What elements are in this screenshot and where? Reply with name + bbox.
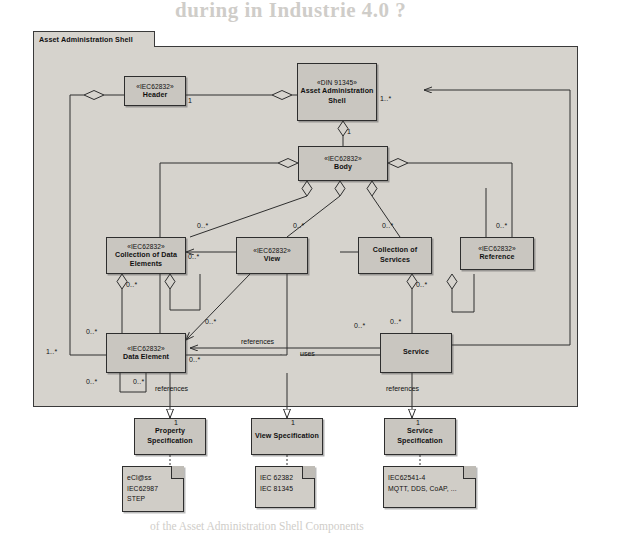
- mult-service-in-a: 0..*: [354, 322, 365, 329]
- note-line: IEC62541-4: [388, 473, 471, 484]
- class-collection-of-services[interactable]: Collection of Services: [358, 237, 432, 274]
- mult-cde-incoming: 0..*: [188, 253, 199, 260]
- note-line: STEP: [127, 494, 179, 505]
- class-body[interactable]: «IEC62832» Body: [298, 146, 388, 181]
- label-service-references: references: [386, 385, 419, 392]
- class-data-element[interactable]: «IEC62832» Data Element: [106, 333, 186, 373]
- mult-service-in-b: 0..*: [390, 318, 401, 325]
- class-header-name: Header: [141, 91, 170, 101]
- note-property-specification: eCl@ss IEC62987 STEP: [122, 466, 184, 512]
- class-service-name: Service: [401, 348, 431, 358]
- class-header[interactable]: «IEC62832» Header: [124, 76, 186, 106]
- label-view-references-dataelement: references: [241, 338, 274, 345]
- note-line: IEC 62382: [260, 473, 310, 484]
- class-view-specification[interactable]: View Specification: [251, 418, 323, 455]
- mult-propspec: 1: [174, 419, 178, 426]
- mult-dataelement-bottom: 0..*: [189, 356, 200, 363]
- mult-dataelement-left: 1..*: [46, 348, 57, 355]
- class-service-specification-name: Service Specification: [385, 427, 455, 446]
- package-title-tab: Asset Administration Shell: [33, 31, 155, 47]
- class-view[interactable]: «IEC62832» View: [236, 237, 308, 274]
- class-data-element-name: Data Element: [121, 353, 171, 363]
- mult-view-to-dataelement: 0..*: [205, 318, 216, 325]
- mult-servspec: 1: [416, 419, 420, 426]
- note-line: MQTT, DDS, CoAP, ...: [388, 484, 471, 495]
- mult-cde-to-dataelement: 0..*: [126, 281, 137, 288]
- mult-body-to-cde: 0..*: [197, 222, 208, 229]
- page-bleed-line: of the Asset Administration Shell Compon…: [150, 520, 364, 532]
- class-cos-name: Collection of Services: [359, 246, 431, 265]
- class-reference-name: Reference: [477, 253, 516, 263]
- class-property-specification-name: Property Specification: [135, 427, 205, 446]
- mult-aas-to-body: 1: [347, 128, 351, 135]
- class-body-stereotype: «IEC62832»: [324, 154, 362, 163]
- note-line: IEC62987: [127, 484, 179, 495]
- note-view-specification: IEC 62382 IEC 81345: [255, 466, 315, 508]
- class-aas-stereotype: «DIN 91345»: [317, 78, 357, 87]
- mult-body-to-cos: 0..*: [382, 222, 393, 229]
- mult-cos-to-service: 0..*: [416, 281, 427, 288]
- class-cde-name: Collection of Data Elements: [107, 251, 185, 270]
- mult-dataelement-self-b: 0..*: [133, 378, 144, 385]
- class-view-specification-name: View Specification: [253, 432, 321, 442]
- mult-dataelement-self-a: 0..*: [86, 378, 97, 385]
- label-dataelement-references: references: [155, 385, 188, 392]
- class-reference[interactable]: «IEC62832» Reference: [460, 237, 534, 270]
- note-service-specification: IEC62541-4 MQTT, DDS, CoAP, ...: [383, 466, 476, 508]
- class-body-name: Body: [332, 163, 354, 173]
- class-reference-stereotype: «IEC62832»: [478, 244, 516, 253]
- class-service[interactable]: Service: [380, 333, 452, 373]
- class-property-specification[interactable]: Property Specification: [134, 418, 206, 455]
- note-line: eCl@ss: [127, 473, 179, 484]
- note-service-text: IEC62541-4 MQTT, DDS, CoAP, ...: [383, 466, 476, 494]
- mult-cde-rail: 0..*: [86, 328, 97, 335]
- mult-viewspec: 1: [291, 419, 295, 426]
- class-asset-administration-shell[interactable]: «DIN 91345» Asset Administration Shell: [297, 63, 377, 121]
- mult-body-to-view: 0..*: [293, 222, 304, 229]
- note-line: IEC 81345: [260, 484, 310, 495]
- class-view-stereotype: «IEC62832»: [253, 246, 291, 255]
- page-bleed-title: during in Industrie 4.0 ?: [175, 0, 406, 23]
- mult-header-to-aas: 1: [188, 97, 192, 104]
- class-view-name: View: [262, 255, 282, 265]
- mult-aas-to-outer: 1..*: [380, 95, 391, 102]
- class-cde-stereotype: «IEC62832»: [127, 242, 165, 251]
- class-collection-of-data-elements[interactable]: «IEC62832» Collection of Data Elements: [106, 237, 186, 274]
- mult-body-to-reference: 0..*: [496, 222, 507, 229]
- class-aas-name: Asset Administration Shell: [298, 87, 376, 106]
- class-data-element-stereotype: «IEC62832»: [127, 344, 165, 353]
- note-property-text: eCl@ss IEC62987 STEP: [122, 466, 184, 505]
- label-service-uses-dataelement: uses: [300, 350, 315, 357]
- class-header-stereotype: «IEC62832»: [136, 82, 174, 91]
- note-view-text: IEC 62382 IEC 81345: [255, 466, 315, 494]
